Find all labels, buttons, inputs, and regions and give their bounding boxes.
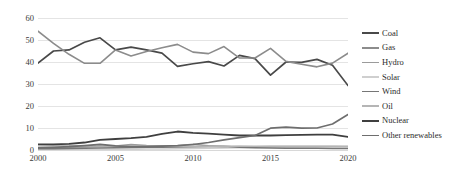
- legend-item[interactable]: Wind: [362, 84, 449, 99]
- legend-swatch-icon: [362, 91, 379, 93]
- y-axis-tick-label: 20: [26, 102, 35, 110]
- legend-item[interactable]: Gas: [362, 41, 449, 56]
- legend-label: Gas: [382, 43, 395, 52]
- x-axis-tick-label: 2015: [262, 154, 279, 163]
- x-axis-tick-label: 2000: [30, 154, 47, 163]
- series-lines: [38, 18, 348, 150]
- legend-item[interactable]: Hydro: [362, 55, 449, 70]
- series-line: [38, 132, 348, 145]
- legend-item[interactable]: Solar: [362, 70, 449, 85]
- legend-label: Other renewables: [382, 131, 442, 140]
- legend-swatch-icon: [362, 32, 379, 34]
- y-axis-tick-label: 50: [26, 36, 35, 44]
- legend-label: Wind: [382, 87, 401, 96]
- line-chart: 0102030405060 20002005201020152020 CoalG…: [0, 0, 449, 175]
- legend-swatch-icon: [362, 120, 379, 122]
- legend-label: Solar: [382, 73, 400, 82]
- legend-item[interactable]: Nuclear: [362, 114, 449, 129]
- y-axis-tick-label: 30: [26, 80, 35, 88]
- legend-label: Nuclear: [382, 116, 409, 125]
- legend-item[interactable]: Oil: [362, 99, 449, 114]
- legend-swatch-icon: [362, 47, 379, 49]
- legend-swatch-icon: [362, 76, 379, 78]
- legend-item[interactable]: Other renewables: [362, 128, 449, 143]
- x-axis-tick-label: 2020: [340, 154, 357, 163]
- plot-area: [38, 18, 348, 150]
- legend-label: Hydro: [382, 58, 404, 67]
- x-axis: 20002005201020152020: [0, 150, 449, 175]
- chart-legend: CoalGasHydroSolarWindOilNuclearOther ren…: [362, 26, 449, 143]
- legend-label: Coal: [382, 29, 398, 38]
- x-axis-tick-label: 2005: [107, 154, 124, 163]
- y-axis-tick-label: 40: [26, 58, 35, 66]
- legend-label: Oil: [382, 102, 393, 111]
- legend-item[interactable]: Coal: [362, 26, 449, 41]
- x-axis-tick-label: 2010: [185, 154, 202, 163]
- series-line: [38, 31, 348, 67]
- legend-swatch-icon: [362, 105, 379, 107]
- y-axis: 0102030405060: [0, 0, 38, 175]
- legend-swatch-icon: [362, 135, 379, 137]
- y-axis-tick-label: 10: [26, 124, 35, 132]
- series-line: [38, 38, 348, 86]
- y-axis-tick-label: 60: [26, 14, 35, 22]
- legend-swatch-icon: [362, 62, 379, 64]
